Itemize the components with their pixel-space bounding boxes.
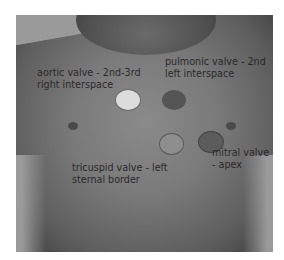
pulmonic-label-line1: pulmonic valve - 2nd [165,56,266,68]
tricuspid-point-marker [159,133,184,155]
chest-photo [16,15,273,252]
mitral-label: mitral valve - apex [212,147,273,171]
aortic-label-line2: right interspace [37,79,141,91]
mitral-label-line2: - apex [212,159,273,171]
tricuspid-label-line2: sternal border [72,174,168,186]
left-nipple [68,122,78,130]
tricuspid-label: tricuspid valve - left sternal border [72,162,168,186]
pulmonic-label: pulmonic valve - 2nd left interspace [165,56,266,80]
aortic-label: aortic valve - 2nd-3rd right interspace [37,67,141,91]
tricuspid-label-line1: tricuspid valve - left [72,162,168,174]
aortic-label-line1: aortic valve - 2nd-3rd [37,67,141,79]
mitral-label-line1: mitral valve [212,147,273,159]
right-nipple [226,122,236,130]
pulmonic-point-marker [162,90,186,110]
background-left [16,155,46,252]
aortic-point-marker [115,89,141,111]
pulmonic-label-line2: left interspace [165,68,266,80]
